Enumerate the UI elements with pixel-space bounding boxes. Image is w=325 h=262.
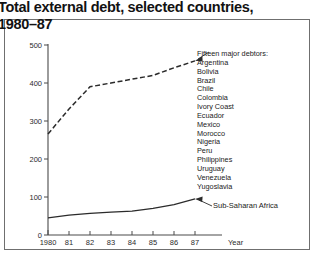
chart-page: Total external debt, selected countries,… xyxy=(0,0,325,262)
x-tick-label-87: 87 xyxy=(186,238,204,247)
y-tick-label-500: 500 xyxy=(16,41,42,50)
chart-svg xyxy=(0,0,325,262)
x-tick-label-85: 85 xyxy=(144,238,162,247)
plot-area: 500 400 300 200 100 0 $ billion 1980 81 … xyxy=(0,0,325,262)
x-tick-label-83: 83 xyxy=(102,238,120,247)
y-tick-label-300: 300 xyxy=(16,117,42,126)
x-tick-label-1980: 1980 xyxy=(36,238,60,247)
series-sub-saharan-africa xyxy=(48,199,195,218)
sub-saharan-arrow-icon xyxy=(195,197,212,206)
y-tick-label-200: 200 xyxy=(16,155,42,164)
y-tick-marks xyxy=(44,45,48,235)
x-tick-marks xyxy=(48,230,195,235)
y-tick-label-400: 400 xyxy=(16,79,42,88)
x-tick-label-84: 84 xyxy=(123,238,141,247)
legend-fifteen-major-debtors: Fifteen major debtors: Argentina Bolivia… xyxy=(197,50,268,192)
x-axis-title: Year xyxy=(228,238,243,247)
x-tick-label-82: 82 xyxy=(81,238,99,247)
x-tick-label-86: 86 xyxy=(165,238,183,247)
series-fifteen-major-debtors xyxy=(48,61,195,134)
legend-item-yugoslavia: Yugoslavia xyxy=(197,183,268,192)
x-tick-label-81: 81 xyxy=(60,238,78,247)
y-tick-label-100: 100 xyxy=(16,193,42,202)
series-label-sub-saharan-africa: Sub-Saharan Africa xyxy=(213,201,278,210)
